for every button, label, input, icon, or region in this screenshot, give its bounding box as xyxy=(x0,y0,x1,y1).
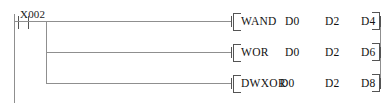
contact-x002[interactable]: X002 xyxy=(14,12,48,32)
contact-bar-right xyxy=(28,16,29,29)
contact-bar-left xyxy=(18,16,19,29)
rung-3-operand-2: D2 xyxy=(325,77,340,89)
wire-contact-gap xyxy=(19,21,28,22)
rung-2-operand-1: D0 xyxy=(285,46,300,58)
rung-3-bracket-close-icon xyxy=(372,74,380,91)
rung-1-bracket-close-icon xyxy=(372,12,380,29)
rung-2-rail-tick xyxy=(380,47,381,58)
rung-2-operand-2: D2 xyxy=(325,46,340,58)
rung-1-terminal-tick xyxy=(231,16,232,27)
rung-2-bracket-close-icon xyxy=(372,43,380,60)
rung-3-operand-1: D0 xyxy=(280,77,295,89)
contact-x002-label: X002 xyxy=(20,9,45,20)
instruction-block-wor[interactable]: WOR xyxy=(233,42,269,62)
rung-2-terminal-tick xyxy=(231,47,232,58)
instruction-name: WOR xyxy=(241,46,269,58)
rung-1-wire xyxy=(46,21,231,22)
rung-3-wire xyxy=(46,83,231,84)
instruction-name: WAND xyxy=(241,15,277,27)
rung-1-operand-2: D2 xyxy=(325,15,340,27)
bracket-open-icon xyxy=(233,13,241,30)
rung-3-terminal-tick xyxy=(231,78,232,89)
rung-1-operand-1: D0 xyxy=(285,15,300,27)
wire-contact-to-branch xyxy=(28,21,47,22)
rung-2-wire xyxy=(46,52,231,53)
instruction-block-wand[interactable]: WAND xyxy=(233,11,277,31)
rung-1-rail-tick xyxy=(380,16,381,27)
bracket-open-icon xyxy=(233,44,241,61)
instruction-block-dwxor[interactable]: DWXOR xyxy=(233,73,286,93)
bracket-open-icon xyxy=(233,75,241,92)
rung-3-rail-tick xyxy=(380,78,381,89)
ladder-logic-diagram: X002 WAND D0 D2 D4 WOR D0 D2 D6 DWXOR D0… xyxy=(0,0,392,103)
